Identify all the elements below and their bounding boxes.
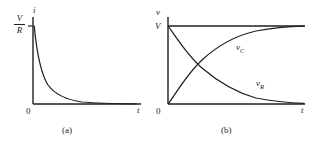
chart-panel-a: i V R 0 t (a) [0, 0, 152, 147]
chart-b-origin-label: 0 [156, 107, 161, 116]
chart-b-y-tick-label-V: V [155, 22, 161, 31]
chart-a-y-tick-denominator: R [16, 26, 24, 35]
chart-b-x-axis-label: t [301, 106, 304, 115]
chart-b-curve-label-vr: vR [256, 79, 264, 90]
chart-a-curve-current [34, 26, 136, 104]
figure-rc-transient-curves: i V R 0 t (a) v V vC vR 0 t ( [0, 0, 316, 147]
chart-b-curve-label-vr-sub: R [260, 83, 264, 90]
chart-a-y-axis-label: i [33, 6, 36, 15]
chart-a-x-axis-label: t [137, 106, 140, 115]
chart-b-curve-label-vc: vC [236, 43, 244, 54]
chart-b-curve-vc [169, 26, 305, 103]
chart-b-curve-label-vc-sub: C [240, 47, 244, 54]
chart-a-caption: (a) [62, 126, 72, 135]
chart-a-y-tick-numerator: V [16, 14, 24, 23]
chart-b-caption: (b) [221, 126, 232, 135]
chart-a-origin-label: 0 [26, 107, 31, 116]
chart-b-plot [152, 0, 316, 147]
chart-a-y-tick-label-v-over-r: V R [14, 14, 25, 35]
chart-panel-b: v V vC vR 0 t (b) [152, 0, 316, 147]
chart-b-y-axis-label: v [156, 8, 160, 17]
